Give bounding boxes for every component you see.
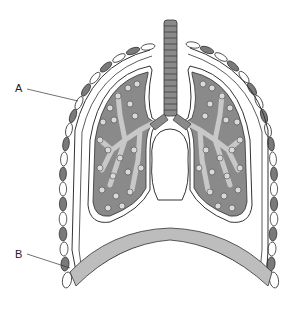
label-a: A bbox=[15, 82, 22, 94]
diaphragm bbox=[70, 228, 272, 286]
label-b: B bbox=[15, 248, 22, 260]
lungs-diagram bbox=[0, 0, 308, 319]
trachea bbox=[164, 20, 177, 116]
label-a-leader bbox=[27, 89, 78, 101]
heart-space bbox=[152, 129, 189, 200]
left-lung bbox=[88, 66, 158, 222]
